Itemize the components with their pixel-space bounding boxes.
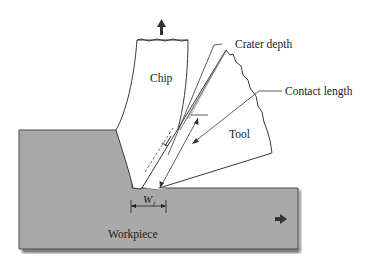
workpiece-label: Workpiece (108, 228, 158, 241)
crater-depth-label: Crater depth (235, 38, 292, 51)
contact-length-label: Contact length (285, 85, 353, 98)
metal-cutting-diagram: Crater depth Contact length Chip Tool Wo… (0, 0, 375, 267)
flank-wear-symbol: W (143, 193, 153, 205)
chip-label: Chip (150, 72, 173, 85)
chip-flow-up-arrow-icon (157, 19, 166, 35)
tool-label: Tool (229, 128, 250, 140)
